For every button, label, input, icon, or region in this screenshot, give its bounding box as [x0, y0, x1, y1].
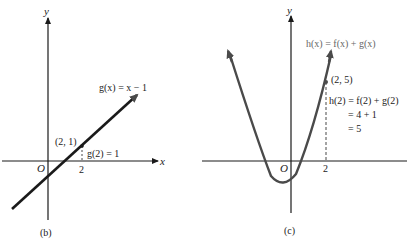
x-axis-label: x [159, 155, 165, 167]
function-label: h(x) = f(x) + g(x) [306, 38, 376, 50]
value-label: g(2) = 1 [87, 148, 119, 160]
point-2-5 [324, 80, 328, 84]
origin-label: O [37, 162, 45, 174]
y-axis-label: y [286, 4, 292, 16]
panel-b: x y O 2 (2, 1) g(2) = 1 g(x) = x − 1 (b) [2, 5, 165, 239]
caption-c: (c) [284, 225, 295, 237]
tick-label-2: 2 [323, 163, 328, 174]
eval-line-2: = 4 + 1 [348, 109, 377, 120]
origin-label: O [280, 162, 288, 174]
caption-b: (b) [40, 227, 52, 239]
eval-line-1: h(2) = f(2) + g(2) [329, 95, 399, 107]
function-label: g(x) = x − 1 [99, 82, 147, 94]
function-graphs: x y O 2 (2, 1) g(2) = 1 g(x) = x − 1 (b)… [0, 0, 407, 244]
point-2-1 [80, 144, 84, 148]
point-label: (2, 5) [331, 74, 353, 86]
point-label: (2, 1) [55, 136, 77, 148]
eval-line-3: = 5 [348, 123, 361, 134]
tick-label-2: 2 [79, 164, 84, 175]
panel-c: y O 2 (2, 5) h(x) = f(x) + g(x) h(2) = f… [202, 4, 407, 237]
y-axis-label: y [43, 5, 49, 17]
